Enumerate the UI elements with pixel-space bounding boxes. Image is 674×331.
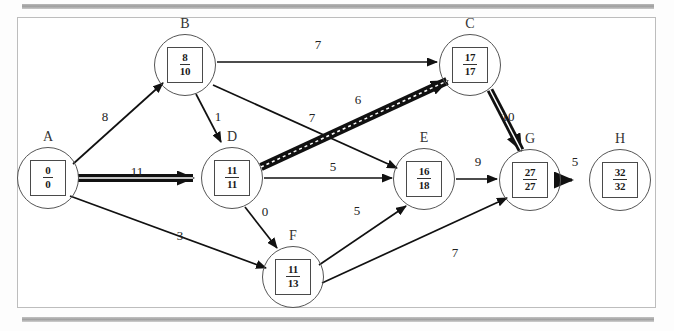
- node-late-time-a: 0: [45, 178, 50, 191]
- node-late-time-b: 10: [180, 65, 191, 78]
- node-value-box-d: 1111: [214, 160, 250, 196]
- node-label-c: C: [465, 16, 474, 32]
- scan-artifact-bar-bottom: [22, 317, 654, 322]
- edge-weight-b-e: 7: [309, 110, 316, 126]
- node-value-box-a: 00: [30, 160, 66, 196]
- node-late-time-g: 27: [525, 180, 536, 193]
- edge-weight-d-c: 6: [355, 92, 362, 108]
- network-node-e: 1618: [393, 148, 455, 210]
- network-node-c: 1717: [439, 34, 501, 96]
- network-node-a: 00: [17, 147, 79, 209]
- node-value-box-b: 810: [167, 47, 203, 83]
- node-late-time-d: 11: [227, 178, 237, 191]
- node-late-time-h: 32: [615, 180, 626, 193]
- node-early-time-b: 8: [180, 52, 189, 65]
- scan-artifact-bar-top: [22, 4, 654, 9]
- edge-weight-g-h: 5: [572, 154, 579, 170]
- node-label-f: F: [289, 228, 297, 244]
- node-label-g: G: [525, 131, 535, 147]
- node-early-time-h: 32: [613, 167, 628, 180]
- edge-weight-c-g: 10: [502, 109, 515, 125]
- node-late-time-e: 18: [419, 179, 430, 192]
- edge-weight-a-b: 8: [102, 109, 109, 125]
- node-value-box-f: 1113: [275, 259, 311, 295]
- node-label-b: B: [180, 16, 189, 32]
- node-early-time-f: 11: [286, 264, 300, 277]
- node-label-a: A: [43, 129, 53, 145]
- node-early-time-c: 17: [463, 52, 478, 65]
- scanned-page-root: 00810171711111618111327273232 ABCDEFGH 8…: [0, 0, 674, 331]
- edge-weight-f-g: 7: [452, 245, 459, 261]
- node-label-h: H: [615, 131, 625, 147]
- edge-weight-f-e: 5: [354, 203, 361, 219]
- network-node-f: 1113: [262, 246, 324, 308]
- edge-weight-b-d: 1: [215, 109, 222, 125]
- node-value-box-e: 1618: [406, 161, 442, 197]
- network-node-d: 1111: [201, 147, 263, 209]
- node-early-time-g: 27: [523, 167, 538, 180]
- network-node-b: 810: [154, 34, 216, 96]
- edge-weight-b-c: 7: [315, 37, 322, 53]
- node-value-box-h: 3232: [602, 162, 638, 198]
- edge-weight-a-f: 3: [177, 228, 184, 244]
- node-value-box-g: 2727: [512, 162, 548, 198]
- node-late-time-c: 17: [465, 65, 476, 78]
- node-late-time-f: 13: [288, 277, 299, 290]
- node-label-d: D: [227, 129, 237, 145]
- node-early-time-e: 16: [417, 166, 432, 179]
- edge-weight-e-g: 9: [475, 154, 482, 170]
- node-early-time-a: 0: [43, 165, 52, 178]
- node-value-box-c: 1717: [452, 47, 488, 83]
- node-label-e: E: [420, 130, 429, 146]
- edge-weight-d-f: 0: [262, 204, 269, 220]
- network-node-g: 2727: [499, 149, 561, 211]
- network-node-h: 3232: [589, 149, 651, 211]
- edge-weight-a-d: 11: [131, 164, 144, 180]
- node-early-time-d: 11: [225, 165, 239, 178]
- edge-weight-d-e: 5: [330, 159, 337, 175]
